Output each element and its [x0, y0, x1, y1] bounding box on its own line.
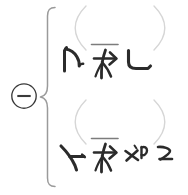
stroke-glyph-hook-up [56, 40, 90, 86]
stroke-glyph-barred-arrow [88, 40, 122, 86]
stroke-glyph-y-mark [56, 134, 90, 180]
expression-row [58, 4, 188, 96]
circled-minus-icon [10, 82, 38, 110]
stroke-glyph-barred-arrow [88, 134, 122, 180]
glyph-sequence [58, 40, 188, 92]
stroke-glyph-scatter-marks [122, 134, 182, 180]
expression-row [58, 98, 188, 190]
glyph-sequence [58, 134, 188, 186]
stroke-glyph-corner-l [124, 40, 158, 86]
handwriting-expression-canvas [0, 0, 188, 195]
left-curly-brace-icon [38, 6, 58, 188]
